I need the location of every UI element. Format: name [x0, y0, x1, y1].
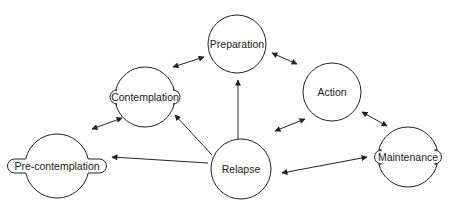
- node-label-relapse: Relapse: [222, 164, 261, 175]
- node-label-precontemplation: Pre-contemplation: [14, 161, 99, 172]
- arrow-relapse-contemplation: [175, 115, 212, 155]
- bidirectional-arrow-precontemplation-contemplation: [92, 118, 122, 129]
- node-label-action: Action: [317, 87, 346, 98]
- node-label-preparation: Preparation: [210, 39, 264, 50]
- node-label-maintenance: Maintenance: [378, 152, 438, 163]
- stages-of-change-diagram: [0, 0, 450, 206]
- bidirectional-arrow-relapse-maintenance: [282, 157, 367, 173]
- node-label-contemplation: Contemplation: [111, 92, 179, 103]
- arrow-relapse-precontemplation: [112, 157, 208, 163]
- bidirectional-arrow-relapse-action: [275, 119, 305, 131]
- bidirectional-arrow-contemplation-preparation: [173, 57, 204, 67]
- bidirectional-arrow-preparation-action: [272, 53, 297, 64]
- bidirectional-arrow-action-maintenance: [362, 112, 387, 126]
